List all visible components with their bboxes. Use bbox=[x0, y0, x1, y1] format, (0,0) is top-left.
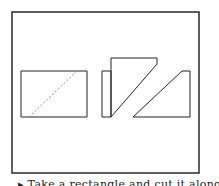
original-rectangle bbox=[21, 71, 87, 117]
figure-caption: ▸ Take a rectangle and cut it along the bbox=[18, 178, 218, 186]
middle-trapezoid-piece bbox=[111, 58, 157, 117]
right-trapezoid-piece bbox=[133, 71, 190, 117]
dashed-cut-line bbox=[29, 71, 77, 117]
figure-frame bbox=[12, 12, 199, 173]
dissection-figure bbox=[0, 0, 219, 186]
left-strip-piece bbox=[102, 71, 111, 117]
